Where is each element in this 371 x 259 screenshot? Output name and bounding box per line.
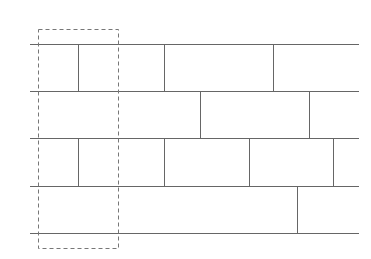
horizontal-lines (30, 45, 359, 234)
brick-diagram-canvas (0, 0, 371, 259)
